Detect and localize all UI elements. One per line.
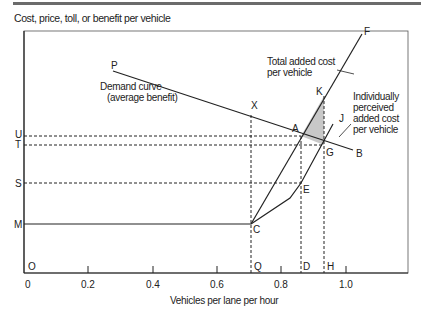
label-C: C xyxy=(253,224,260,235)
x-tick-0.8: 0.8 xyxy=(274,279,288,290)
x-tick-0.4: 0.4 xyxy=(146,279,160,290)
reference-dashes xyxy=(24,96,324,273)
label-X: X xyxy=(251,100,258,111)
label-K: K xyxy=(316,86,323,97)
individual-annotation-line1: Individually xyxy=(353,91,399,102)
deadweight-shaded-area xyxy=(301,96,324,145)
total-cost-annotation-line1: Total added cost xyxy=(267,56,336,67)
label-T: T xyxy=(15,139,21,150)
label-M: M xyxy=(14,219,22,230)
label-J: J xyxy=(339,113,344,124)
x-tick-0: 0 xyxy=(25,279,31,290)
label-P: P xyxy=(111,60,118,71)
demand-annotation-line2: (average benefit) xyxy=(107,92,178,103)
x-tick-1.0: 1.0 xyxy=(339,279,353,290)
x-tick-0.6: 0.6 xyxy=(210,279,224,290)
individual-cost-leader xyxy=(339,124,351,137)
plot-frame xyxy=(24,31,408,273)
label-G: G xyxy=(326,147,334,158)
label-B: B xyxy=(356,148,363,159)
label-Q: Q xyxy=(254,261,262,272)
individual-annotation-line4: per vehicle xyxy=(353,124,399,135)
demand-annotation-line1: Demand curve xyxy=(100,81,162,92)
individual-annotation-line3: added cost xyxy=(353,113,399,124)
label-H: H xyxy=(327,261,334,272)
label-A: A xyxy=(292,123,299,134)
x-axis-title: Vehicles per lane per hour xyxy=(170,295,279,306)
origin-label: O xyxy=(28,261,36,272)
label-F: F xyxy=(364,26,370,37)
label-S: S xyxy=(15,178,22,189)
total-cost-annotation-line2: per vehicle xyxy=(267,67,313,78)
individual-annotation-line2: perceived xyxy=(353,102,394,113)
label-E: E xyxy=(303,184,310,195)
economics-diagram: 0 0.2 0.4 0.6 0.8 1.0 Vehicles per lane … xyxy=(0,0,421,313)
x-tick-0.2: 0.2 xyxy=(81,279,95,290)
label-D: D xyxy=(303,261,310,272)
